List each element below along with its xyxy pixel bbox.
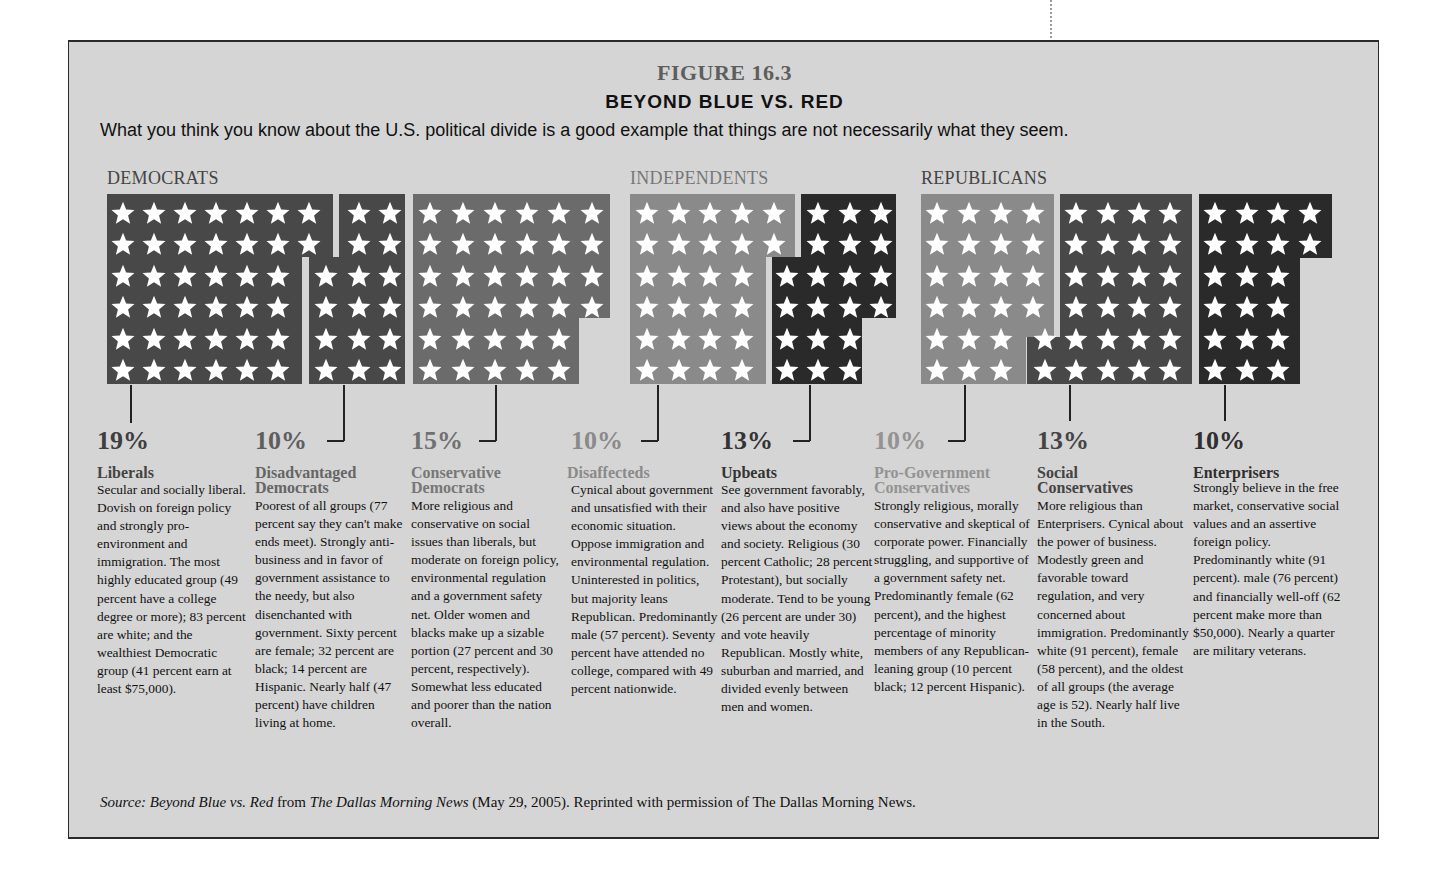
- leader-line-disadvantaged: [343, 385, 345, 441]
- star-icon: [805, 231, 831, 257]
- star-icon: [634, 294, 660, 320]
- group-desc-upbeats: See government favorably, and also have …: [721, 481, 873, 716]
- star-icon: [110, 263, 136, 289]
- star-icon: [774, 357, 800, 383]
- star-icon: [203, 294, 229, 320]
- star-icon: [697, 231, 723, 257]
- group-desc-social-conservatives: More religious than Enterprisers. Cynica…: [1037, 497, 1189, 732]
- star-icon: [924, 263, 950, 289]
- star-icon: [666, 263, 692, 289]
- star-icon: [265, 200, 291, 226]
- leader-line-enterprisers: [1224, 385, 1226, 421]
- star-icon: [417, 294, 443, 320]
- star-icon: [774, 326, 800, 352]
- star-icon: [141, 263, 167, 289]
- group-name-upbeats: Upbeats: [721, 465, 777, 480]
- source-rest: (May 29, 2005). Reprinted with permissio…: [472, 794, 915, 810]
- star-icon: [417, 200, 443, 226]
- star-icon: [265, 294, 291, 320]
- star-icon: [1234, 357, 1260, 383]
- party-label-republicans: REPUBLICANS: [921, 168, 1047, 189]
- star-icon: [1234, 231, 1260, 257]
- star-icon: [697, 263, 723, 289]
- star-icon: [956, 200, 982, 226]
- leader-line-disadvantaged-h: [327, 440, 344, 442]
- star-icon: [1095, 294, 1121, 320]
- star-icon: [634, 326, 660, 352]
- group-name-line2: Democrats: [255, 480, 356, 495]
- star-icon: [482, 200, 508, 226]
- star-icon: [666, 357, 692, 383]
- leader-line-disaffecteds: [657, 385, 659, 441]
- star-icon: [346, 200, 372, 226]
- star-icon: [203, 357, 229, 383]
- star-icon: [579, 231, 605, 257]
- star-icon: [377, 200, 403, 226]
- star-icon: [141, 357, 167, 383]
- star-icon: [346, 231, 372, 257]
- star-icon: [697, 326, 723, 352]
- star-icon: [729, 357, 755, 383]
- percent-liberals: 19%: [97, 426, 149, 456]
- star-icon: [1020, 231, 1046, 257]
- star-icon: [450, 200, 476, 226]
- star-icon: [837, 357, 863, 383]
- star-icon: [1032, 326, 1058, 352]
- star-icon: [1234, 326, 1260, 352]
- leader-line-disaffecteds-h: [641, 440, 658, 442]
- star-icon: [761, 231, 787, 257]
- group-name-line1: Upbeats: [721, 465, 777, 480]
- star-icon: [1063, 294, 1089, 320]
- group-desc-enterprisers: Strongly believe in the free market, con…: [1193, 479, 1345, 660]
- star-icon: [805, 357, 831, 383]
- star-icon: [1265, 200, 1291, 226]
- star-icon: [296, 200, 322, 226]
- star-icon: [377, 294, 403, 320]
- group-name-line1: Disadvantaged: [255, 465, 356, 480]
- star-icon: [1202, 357, 1228, 383]
- star-icon: [417, 231, 443, 257]
- star-icon: [924, 200, 950, 226]
- star-icon: [1265, 263, 1291, 289]
- percent-pro-government: 10%: [874, 426, 926, 456]
- group-name-line2: Conservatives: [1037, 480, 1133, 495]
- percent-disadvantaged: 10%: [255, 426, 307, 456]
- star-icon: [837, 231, 863, 257]
- percent-conservative-dem: 15%: [411, 426, 463, 456]
- group-name-line1: Pro-Government: [874, 465, 990, 480]
- star-icon: [514, 200, 540, 226]
- star-icon: [546, 263, 572, 289]
- star-icon: [1063, 231, 1089, 257]
- star-icon: [924, 326, 950, 352]
- group-name-line2: Democrats: [411, 480, 501, 495]
- star-icon: [110, 200, 136, 226]
- star-icon: [988, 357, 1014, 383]
- star-icon: [1126, 294, 1152, 320]
- star-icon: [837, 326, 863, 352]
- star-icon: [729, 263, 755, 289]
- star-icon: [1126, 263, 1152, 289]
- group-name-liberals: Liberals: [97, 465, 154, 480]
- figure-panel: FIGURE 16.3 BEYOND BLUE VS. RED What you…: [68, 40, 1379, 839]
- star-icon: [634, 357, 660, 383]
- star-icon: [634, 263, 660, 289]
- star-icon: [1095, 326, 1121, 352]
- star-icon: [546, 294, 572, 320]
- leader-line-conservative-dem: [495, 385, 497, 441]
- leader-line-pro-government: [964, 385, 966, 441]
- star-icon: [141, 294, 167, 320]
- star-icon: [956, 231, 982, 257]
- star-icon: [837, 200, 863, 226]
- party-label-democrats: DEMOCRATS: [107, 168, 219, 189]
- star-icon: [1157, 294, 1183, 320]
- star-icon: [234, 326, 260, 352]
- star-icon: [110, 231, 136, 257]
- star-icon: [234, 200, 260, 226]
- star-icon: [514, 231, 540, 257]
- leader-line-upbeats-h: [793, 440, 810, 442]
- star-icon: [172, 326, 198, 352]
- star-icon: [988, 263, 1014, 289]
- star-icon: [514, 357, 540, 383]
- star-icon: [697, 200, 723, 226]
- star-icon: [482, 357, 508, 383]
